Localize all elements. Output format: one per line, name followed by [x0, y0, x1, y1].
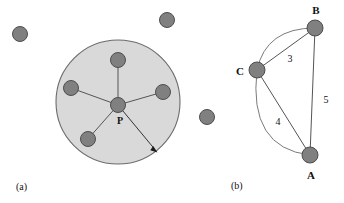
- neighbor-node-bottom-left: [81, 132, 96, 147]
- graph-node-a: [302, 147, 318, 163]
- graph-node-b: [307, 20, 323, 36]
- center-node-p: [111, 98, 126, 113]
- outside-node-top-right: [160, 13, 175, 28]
- graph-nodes: [249, 20, 323, 163]
- figure-container: P B: [0, 0, 344, 203]
- graph-node-label-b: B: [312, 4, 320, 16]
- graph-edges: [257, 28, 315, 155]
- panel-b-caption: (b): [231, 180, 243, 191]
- graph-node-c: [249, 62, 265, 78]
- graph-edge-weight-labels: 3 5 4: [276, 53, 329, 127]
- edge-c-a: [257, 70, 310, 155]
- panel-b-group: B C A 3 5 4: [236, 4, 328, 181]
- neighbor-node-top: [111, 53, 126, 68]
- panel-a-group: P: [13, 13, 215, 165]
- outside-node-right: [200, 110, 215, 125]
- neighbor-node-left: [64, 81, 79, 96]
- panel-a-caption: (a): [16, 181, 27, 192]
- figure-canvas: P B: [0, 0, 344, 203]
- graph-node-label-a: A: [307, 169, 315, 181]
- edge-b-a: [310, 28, 315, 155]
- neighbor-node-right: [156, 85, 171, 100]
- center-node-p-label: P: [117, 115, 123, 126]
- edge-weight-label-cb: 3: [288, 53, 293, 64]
- outside-node-top-left: [13, 27, 28, 42]
- edge-weight-label-ba: 5: [324, 94, 329, 105]
- edge-weight-label-ca: 4: [276, 116, 281, 127]
- graph-node-label-c: C: [236, 65, 244, 77]
- graph-arcs: [256, 28, 315, 155]
